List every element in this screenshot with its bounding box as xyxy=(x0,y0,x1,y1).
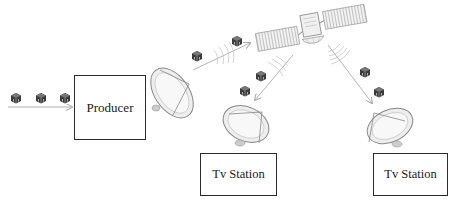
tv-station-label: Tv Station xyxy=(212,167,264,182)
tv-station-node-right: Tv Station xyxy=(373,153,448,196)
package-cube-icon xyxy=(240,86,250,97)
producer-label: Producer xyxy=(87,100,134,116)
downlink-dish-right xyxy=(361,101,418,150)
downlink-signal-left xyxy=(240,55,293,100)
uplink-signal xyxy=(192,36,250,70)
input-packets xyxy=(11,93,70,104)
downlink-signal-right xyxy=(328,44,384,103)
package-cube-icon xyxy=(374,87,384,98)
satellite-icon xyxy=(254,4,370,54)
downlink-dish-left xyxy=(217,98,275,149)
uplink-dish xyxy=(142,60,202,125)
package-cube-icon xyxy=(11,93,21,104)
package-cube-icon xyxy=(232,36,242,47)
package-cube-icon xyxy=(256,71,266,82)
producer-node: Producer xyxy=(74,75,146,140)
package-cube-icon xyxy=(192,51,202,62)
tv-station-node-left: Tv Station xyxy=(200,153,277,196)
satellite-broadcast-diagram: Producer Tv Station Tv Station xyxy=(0,0,455,205)
package-cube-icon xyxy=(36,93,46,104)
package-cube-icon xyxy=(60,93,70,104)
package-cube-icon xyxy=(360,67,370,78)
tv-station-label: Tv Station xyxy=(384,167,436,182)
